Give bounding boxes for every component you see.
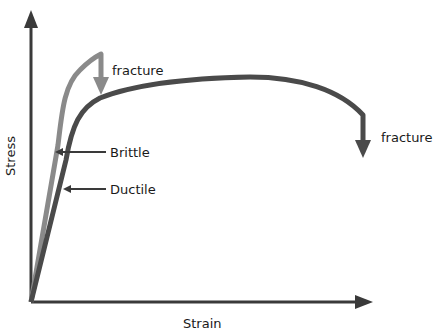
brittle-fracture-label: fracture — [112, 63, 163, 78]
ductile-pointer-arrowhead — [63, 185, 71, 193]
x-axis-arrowhead — [355, 295, 373, 309]
y-axis-arrowhead — [24, 10, 38, 28]
stress-strain-diagram: fracture fracture Brittle Ductile Strain… — [0, 0, 435, 331]
ductile-fracture-arrowhead — [355, 140, 371, 158]
brittle-fracture-arrowhead — [93, 77, 109, 95]
x-axis-label: Strain — [183, 316, 222, 331]
ductile-fracture-label: fracture — [381, 130, 432, 145]
ductile-label: Ductile — [110, 182, 156, 197]
y-axis-label: Stress — [3, 136, 18, 176]
brittle-label: Brittle — [110, 145, 150, 160]
